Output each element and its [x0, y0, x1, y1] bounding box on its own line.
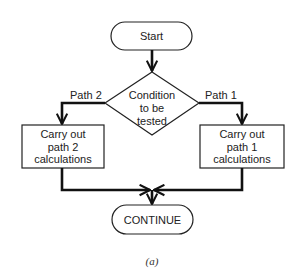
decision-line-3: tested: [137, 115, 167, 127]
start-terminal: Start: [111, 22, 192, 50]
path-2-process-box: Carry out path 2 calculations: [22, 125, 104, 168]
path-1-label: Path 1: [205, 89, 237, 101]
path-1-connector: [199, 103, 242, 124]
path-1-process-box: Carry out path 1 calculations: [200, 125, 284, 168]
continue-label: CONTINUE: [124, 214, 181, 226]
path-2-connector: [62, 103, 105, 124]
decision-line-1: Condition: [129, 89, 175, 101]
path-1-merge-connector: [154, 168, 242, 190]
path-2-box-line-2: path 2: [48, 141, 79, 153]
path-2-box-line-1: Carry out: [40, 128, 85, 140]
flowchart-canvas: Start Condition to be tested Path 2 Path…: [0, 0, 298, 279]
path-1-box-line-1: Carry out: [219, 128, 264, 140]
start-label: Start: [140, 30, 163, 42]
path-2-merge-connector: [62, 168, 150, 190]
path-2-label: Path 2: [70, 89, 102, 101]
path-1-box-line-3: calculations: [213, 153, 271, 165]
path-2-box-line-3: calculations: [34, 153, 92, 165]
path-1-box-line-2: path 1: [227, 141, 258, 153]
decision-diamond: Condition to be tested: [105, 72, 199, 135]
continue-terminal: CONTINUE: [112, 205, 193, 234]
decision-line-2: to be: [140, 102, 164, 114]
figure-caption: (a): [146, 255, 159, 268]
